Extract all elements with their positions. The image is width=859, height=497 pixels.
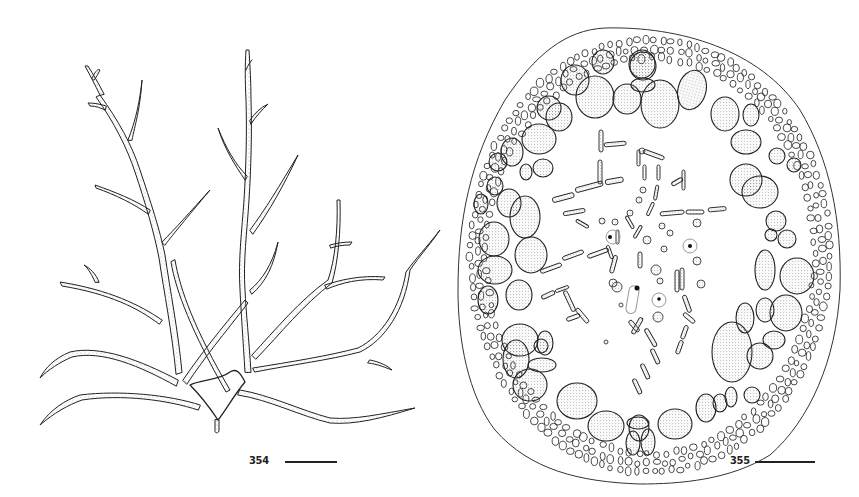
thallus-habit-illustration (0, 0, 450, 497)
figure-number-355: 355 (730, 454, 750, 467)
scale-bar-354 (285, 461, 337, 463)
figure-number-354: 354 (249, 454, 269, 467)
transverse-section-illustration (440, 0, 859, 497)
figure-354: 354 (0, 0, 450, 497)
figure-355: 355 (440, 0, 859, 497)
scale-bar-355 (755, 461, 815, 463)
